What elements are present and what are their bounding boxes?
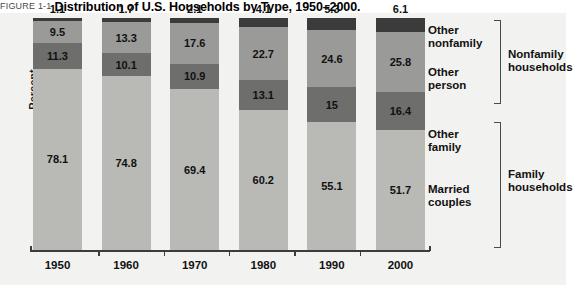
legend-group-1: Nonfamilyhouseholds <box>508 48 577 74</box>
bar-column[interactable]: 1.713.310.174.8 <box>102 18 151 250</box>
bar-stack: 17.610.969.4 <box>170 18 219 250</box>
bar-segment[interactable]: 69.4 <box>170 89 219 250</box>
legend-item-4: Marriedcouples <box>428 183 490 208</box>
legend-group-2: Familyhouseholds <box>508 168 577 194</box>
x-axis-line <box>30 250 430 252</box>
x-axis-tick-label: 1990 <box>307 259 356 271</box>
legend-group-line2: households <box>508 181 577 194</box>
bars-row: 1.19.511.378.11.713.310.174.82.117.610.9… <box>33 18 425 250</box>
bar-segment[interactable] <box>239 18 288 28</box>
legend-item-line2: nonfamily <box>428 37 490 50</box>
bar-segment[interactable]: 60.2 <box>239 110 288 250</box>
legend-item-3: Otherfamily <box>428 128 490 153</box>
bar-segment[interactable]: 9.5 <box>33 21 82 43</box>
bar-segment[interactable]: 13.3 <box>102 22 151 53</box>
legend-item-line1: Married <box>428 183 490 196</box>
bar-top-value-label: 4.1 <box>239 3 288 15</box>
bar-column[interactable]: 5.324.61555.1 <box>307 18 356 250</box>
x-axis-tick-label: 1960 <box>102 259 151 271</box>
bar-stack: 24.61555.1 <box>307 18 356 250</box>
legend-group-line1: Family <box>508 168 577 181</box>
bar-segment[interactable] <box>307 18 356 30</box>
bar-column[interactable]: 6.125.816.451.7 <box>376 18 425 250</box>
legend-item-line2: person <box>428 79 490 92</box>
x-axis-tick-label: 1950 <box>33 259 82 271</box>
x-axis-tick-label: 1970 <box>170 259 219 271</box>
legend-bracket-2 <box>494 122 501 248</box>
bar-column[interactable]: 4.122.713.160.2 <box>239 18 288 250</box>
legend-item-line1: Other <box>428 24 490 37</box>
bar-column[interactable]: 2.117.610.969.4 <box>170 18 219 250</box>
legend-item-line1: Other <box>428 66 490 79</box>
bar-segment[interactable]: 10.1 <box>102 53 151 76</box>
x-axis-tick-labels: 195019601970198019902000 <box>33 259 425 271</box>
bar-segment[interactable]: 15 <box>307 87 356 122</box>
x-axis-tick-label: 1980 <box>239 259 288 271</box>
bar-segment[interactable]: 25.8 <box>376 32 425 92</box>
bar-top-value-label: 1.1 <box>33 3 82 15</box>
chart-legend: OthernonfamilyOtherpersonOtherfamilyMarr… <box>428 18 566 250</box>
x-axis-left-cap <box>30 246 32 251</box>
x-axis-tick <box>294 250 296 256</box>
legend-item-1: Othernonfamily <box>428 24 490 49</box>
bar-segment[interactable]: 78.1 <box>33 69 82 250</box>
legend-item-2: Otherperson <box>428 66 490 91</box>
bar-segment[interactable]: 55.1 <box>307 122 356 250</box>
bar-top-value-label: 2.1 <box>170 3 219 15</box>
bar-stack: 22.713.160.2 <box>239 18 288 250</box>
x-axis-tick <box>164 250 166 256</box>
legend-bracket-1 <box>494 20 501 104</box>
bar-segment[interactable]: 51.7 <box>376 130 425 250</box>
bar-stack: 9.511.378.1 <box>33 18 82 250</box>
bar-top-value-label: 5.3 <box>307 3 356 15</box>
bar-stack: 13.310.174.8 <box>102 18 151 250</box>
bar-segment[interactable]: 22.7 <box>239 27 288 80</box>
bar-segment[interactable]: 16.4 <box>376 92 425 130</box>
x-axis-tick <box>229 250 231 256</box>
legend-item-line2: family <box>428 141 490 154</box>
legend-group-line1: Nonfamily <box>508 48 577 61</box>
bar-top-value-label: 1.7 <box>102 3 151 15</box>
bar-top-value-label: 6.1 <box>376 3 425 15</box>
bar-segment[interactable]: 11.3 <box>33 43 82 69</box>
plot-area: Percent 1.19.511.378.11.713.310.174.82.1… <box>33 18 425 250</box>
bar-column[interactable]: 1.19.511.378.1 <box>33 18 82 250</box>
legend-item-line1: Other <box>428 128 490 141</box>
bar-segment[interactable]: 13.1 <box>239 80 288 110</box>
bar-segment[interactable]: 24.6 <box>307 30 356 87</box>
x-axis-tick <box>98 250 100 256</box>
bar-segment[interactable]: 74.8 <box>102 76 151 250</box>
bar-segment[interactable]: 17.6 <box>170 23 219 64</box>
legend-item-line2: couples <box>428 196 490 209</box>
x-axis-tick <box>360 250 362 256</box>
x-axis-tick-label: 2000 <box>376 259 425 271</box>
legend-group-line2: households <box>508 61 577 74</box>
bar-stack: 25.816.451.7 <box>376 18 425 250</box>
bar-segment[interactable] <box>376 18 425 32</box>
bar-segment[interactable]: 10.9 <box>170 64 219 89</box>
